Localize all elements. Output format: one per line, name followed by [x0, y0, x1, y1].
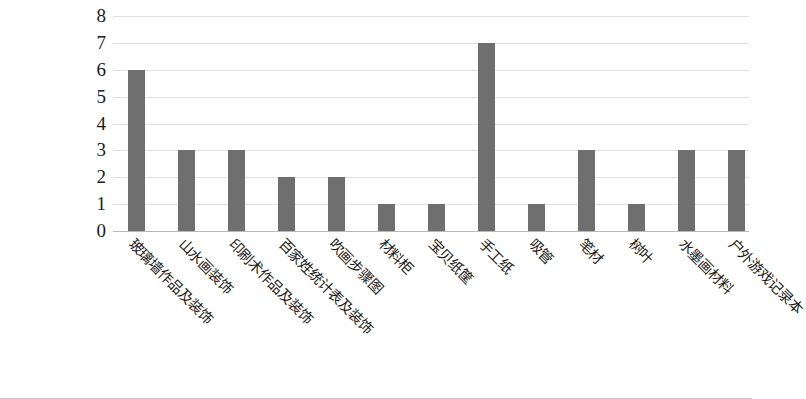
bar[interactable]: [528, 204, 545, 231]
x-tick-label: 户外游戏记录本: [726, 237, 806, 317]
bar[interactable]: [328, 177, 345, 231]
x-label-slot: 户外游戏记录本: [715, 233, 765, 393]
y-tick-label: 5: [82, 87, 106, 106]
y-axis: 012345678: [78, 16, 106, 231]
bar[interactable]: [228, 150, 245, 231]
gridline: [113, 177, 749, 178]
x-label-slot: 吹画步骤图: [315, 233, 365, 393]
x-label-slot: 笔材: [565, 233, 615, 393]
x-tick-label: 吸管: [526, 237, 556, 267]
gridline: [113, 16, 749, 17]
x-label-slot: 山水画装饰: [165, 233, 215, 393]
y-tick-label: 4: [82, 114, 106, 133]
plot-area: [113, 16, 749, 231]
x-label-slot: 玻璃墙作品及装饰: [115, 233, 165, 393]
x-label-slot: 手工纸: [465, 233, 515, 393]
y-tick-label: 0: [82, 221, 106, 240]
x-tick-label: 笔材: [576, 237, 606, 267]
x-label-slot: 印刷术作品及装饰: [215, 233, 265, 393]
x-axis-line: [113, 231, 749, 232]
bar[interactable]: [478, 43, 495, 231]
x-label-slot: 吸管: [515, 233, 565, 393]
gridline: [113, 70, 749, 71]
x-label-slot: 水墨画材料: [665, 233, 715, 393]
x-tick-label: 材料柜: [376, 237, 416, 277]
y-tick-label: 2: [82, 167, 106, 186]
y-tick-label: 6: [82, 60, 106, 79]
x-tick-label: 手工纸: [476, 237, 516, 277]
x-tick-label: 树叶: [626, 237, 656, 267]
y-tick-label: 7: [82, 33, 106, 52]
x-label-slot: 树叶: [615, 233, 665, 393]
bar[interactable]: [128, 70, 145, 231]
bar[interactable]: [578, 150, 595, 231]
y-tick-label: 1: [82, 194, 106, 213]
bar[interactable]: [678, 150, 695, 231]
gridline: [113, 150, 749, 151]
bar[interactable]: [428, 204, 445, 231]
gridline: [113, 124, 749, 125]
bar[interactable]: [178, 150, 195, 231]
gridline: [113, 97, 749, 98]
x-axis: 玻璃墙作品及装饰山水画装饰印刷术作品及装饰百家姓统计表及装饰吹画步骤图材料柜宝贝…: [113, 233, 749, 399]
x-label-slot: 百家姓统计表及装饰: [265, 233, 315, 393]
x-label-slot: 宝贝纸筐: [415, 233, 465, 393]
bar[interactable]: [628, 204, 645, 231]
bar[interactable]: [378, 204, 395, 231]
y-tick-label: 8: [82, 6, 106, 25]
bar[interactable]: [728, 150, 745, 231]
bar[interactable]: [278, 177, 295, 231]
y-tick-label: 3: [82, 140, 106, 159]
x-label-slot: 材料柜: [365, 233, 415, 393]
gridline: [113, 43, 749, 44]
